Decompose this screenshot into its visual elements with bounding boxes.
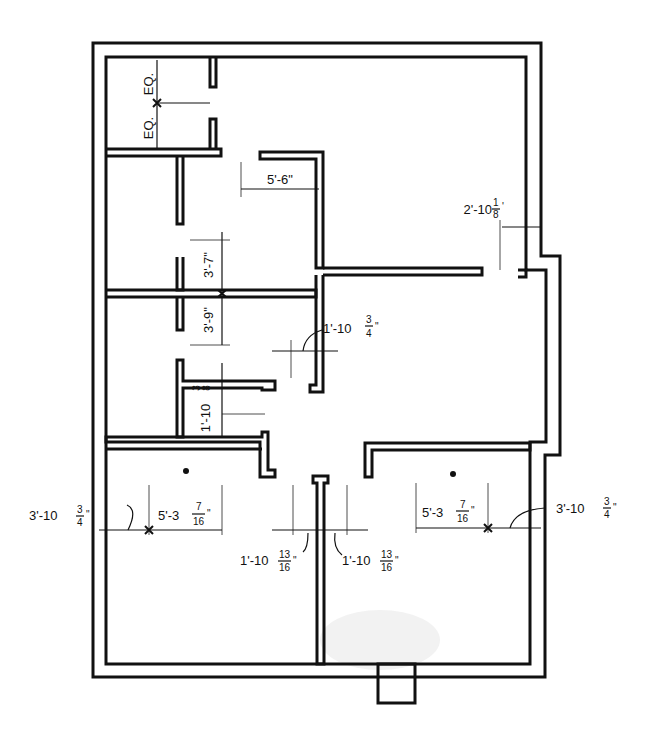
floor-plan: EQ. EQ. 5'-6" 3'-7" 3'-9" 1'-10 3 8 1'-1… <box>0 0 649 737</box>
label-left-outer-whole: 3'-10 <box>29 508 58 523</box>
wall-top-left-room-right-lower <box>210 119 216 149</box>
label-center-wall-whole: 1'-10 <box>323 321 352 336</box>
label-upper-office-width: 5'-6" <box>267 172 293 187</box>
smudge-mark <box>320 610 440 670</box>
label-center-right-num: 13 <box>381 549 393 560</box>
wall-upper-left-vertical-stub <box>177 156 183 224</box>
column-dot-right <box>450 471 456 477</box>
label-left-room-den: 16 <box>193 516 205 527</box>
wall-right-hall-bottom <box>365 443 530 477</box>
label-right-wall-whole: 2'-10 <box>463 202 492 217</box>
svg-text:": " <box>86 509 90 520</box>
label-right-wall-den: 8 <box>493 209 499 220</box>
wall-middle-left-vertical-bottom <box>177 297 183 330</box>
label-corridor-lower: 3'-9" <box>201 307 216 333</box>
label-left-room-whole: 5'-3 <box>158 508 179 523</box>
label-left-outer-num: 3 <box>77 504 83 515</box>
wall-middle-left-horizontal <box>106 290 316 297</box>
wall-middle-left-vertical-top <box>177 257 183 290</box>
svg-text:": " <box>375 321 379 332</box>
label-closet-depth-den: 8 <box>201 385 212 391</box>
wall-top-left-room-right-upper <box>210 57 216 87</box>
svg-text:": " <box>395 555 399 566</box>
label-right-outer-den: 4 <box>604 509 610 520</box>
label-eq-bottom: EQ. <box>141 117 156 139</box>
dim-right-wall-offset: 2'-10 1 8 ' <box>463 197 541 270</box>
outer-wall-outer-line <box>93 43 560 677</box>
label-center-right-den: 16 <box>381 562 393 573</box>
label-right-outer-whole: 3'-10 <box>556 501 585 516</box>
dim-eq-eq: EQ. EQ. <box>141 60 210 148</box>
label-right-room-whole: 5'-3 <box>422 505 443 520</box>
label-right-room-num: 7 <box>460 499 466 510</box>
dim-closet-depth: 1'-10 3 8 <box>191 363 265 436</box>
wall-upper-office <box>260 152 323 268</box>
svg-text:": " <box>471 505 475 516</box>
svg-text:': ' <box>502 201 504 212</box>
label-right-wall-num: 1 <box>493 197 499 208</box>
label-center-wall-num: 3 <box>366 314 372 325</box>
label-corridor-upper: 3'-7" <box>201 252 216 278</box>
svg-text:": " <box>293 555 297 566</box>
dim-lower-left: 3'-10 3 4 " 5'-3 7 16 " <box>29 485 222 535</box>
label-left-outer-den: 4 <box>77 517 83 528</box>
wall-center-vertical <box>310 275 323 392</box>
label-closet-depth-whole: 1'-10 <box>198 404 213 433</box>
wall-closet <box>177 360 275 437</box>
label-center-wall-den: 4 <box>366 328 372 339</box>
dim-lower-right: 5'-3 7 16 " 3'-10 3 4 " <box>416 483 617 533</box>
svg-text:": " <box>207 508 211 519</box>
column-dot-left <box>183 468 189 474</box>
wall-top-left-room-bottom <box>106 149 221 156</box>
label-eq-top: EQ. <box>141 73 156 95</box>
label-center-right-whole: 1'-10 <box>342 553 371 568</box>
svg-text:": " <box>613 502 617 513</box>
label-right-room-den: 16 <box>457 513 469 524</box>
dim-upper-office-width: 5'-6" <box>241 162 319 197</box>
label-center-left-den: 16 <box>279 562 291 573</box>
dim-center-wall-offset: 1'-10 3 4 " <box>272 314 379 378</box>
dim-lower-center: 1'-10 13 16 " 1'-10 13 16 " <box>240 485 399 573</box>
label-right-outer-num: 3 <box>604 496 610 507</box>
wall-center-horizontal <box>323 268 482 275</box>
label-center-left-num: 13 <box>279 549 291 560</box>
wall-closet-lower-stub <box>106 432 275 477</box>
wall-right-stub <box>518 270 526 277</box>
label-left-room-num: 7 <box>196 501 202 512</box>
label-center-left-whole: 1'-10 <box>240 553 269 568</box>
